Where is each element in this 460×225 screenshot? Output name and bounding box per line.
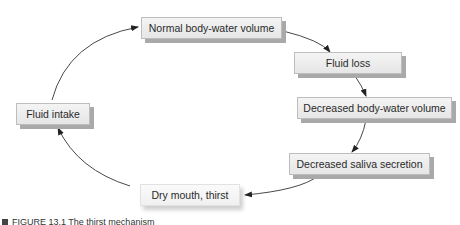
- node-decreased-saliva-secretion: Decreased saliva secretion: [289, 153, 430, 175]
- arrow-dry-mouth-to-intake: [58, 128, 130, 186]
- arrow-intake-to-normal: [52, 27, 138, 100]
- arrow-loss-to-decreased-volume: [355, 76, 366, 96]
- node-dry-mouth-thirst: Dry mouth, thirst: [140, 184, 240, 206]
- caption-square-icon: [2, 219, 8, 225]
- node-label: Decreased body-water volume: [303, 102, 445, 114]
- node-decreased-body-water-volume: Decreased body-water volume: [297, 97, 452, 119]
- arrow-normal-to-loss: [283, 31, 330, 52]
- thirst-cycle-diagram: Normal body-water volume Fluid loss Decr…: [0, 0, 460, 225]
- node-fluid-intake: Fluid intake: [16, 103, 90, 125]
- figure-caption: FIGURE 13.1 The thirst mechanism: [2, 217, 154, 225]
- node-normal-body-water-volume: Normal body-water volume: [141, 17, 282, 39]
- node-label: Decreased saliva secretion: [296, 158, 422, 170]
- caption-text: FIGURE 13.1 The thirst mechanism: [12, 217, 154, 225]
- node-label: Fluid intake: [26, 108, 80, 120]
- node-fluid-loss: Fluid loss: [294, 52, 402, 74]
- arrow-saliva-to-dry-mouth: [245, 176, 318, 195]
- node-label: Fluid loss: [326, 57, 370, 69]
- arrow-decreased-volume-to-saliva: [352, 120, 366, 152]
- node-label: Dry mouth, thirst: [151, 189, 228, 201]
- node-label: Normal body-water volume: [149, 22, 274, 34]
